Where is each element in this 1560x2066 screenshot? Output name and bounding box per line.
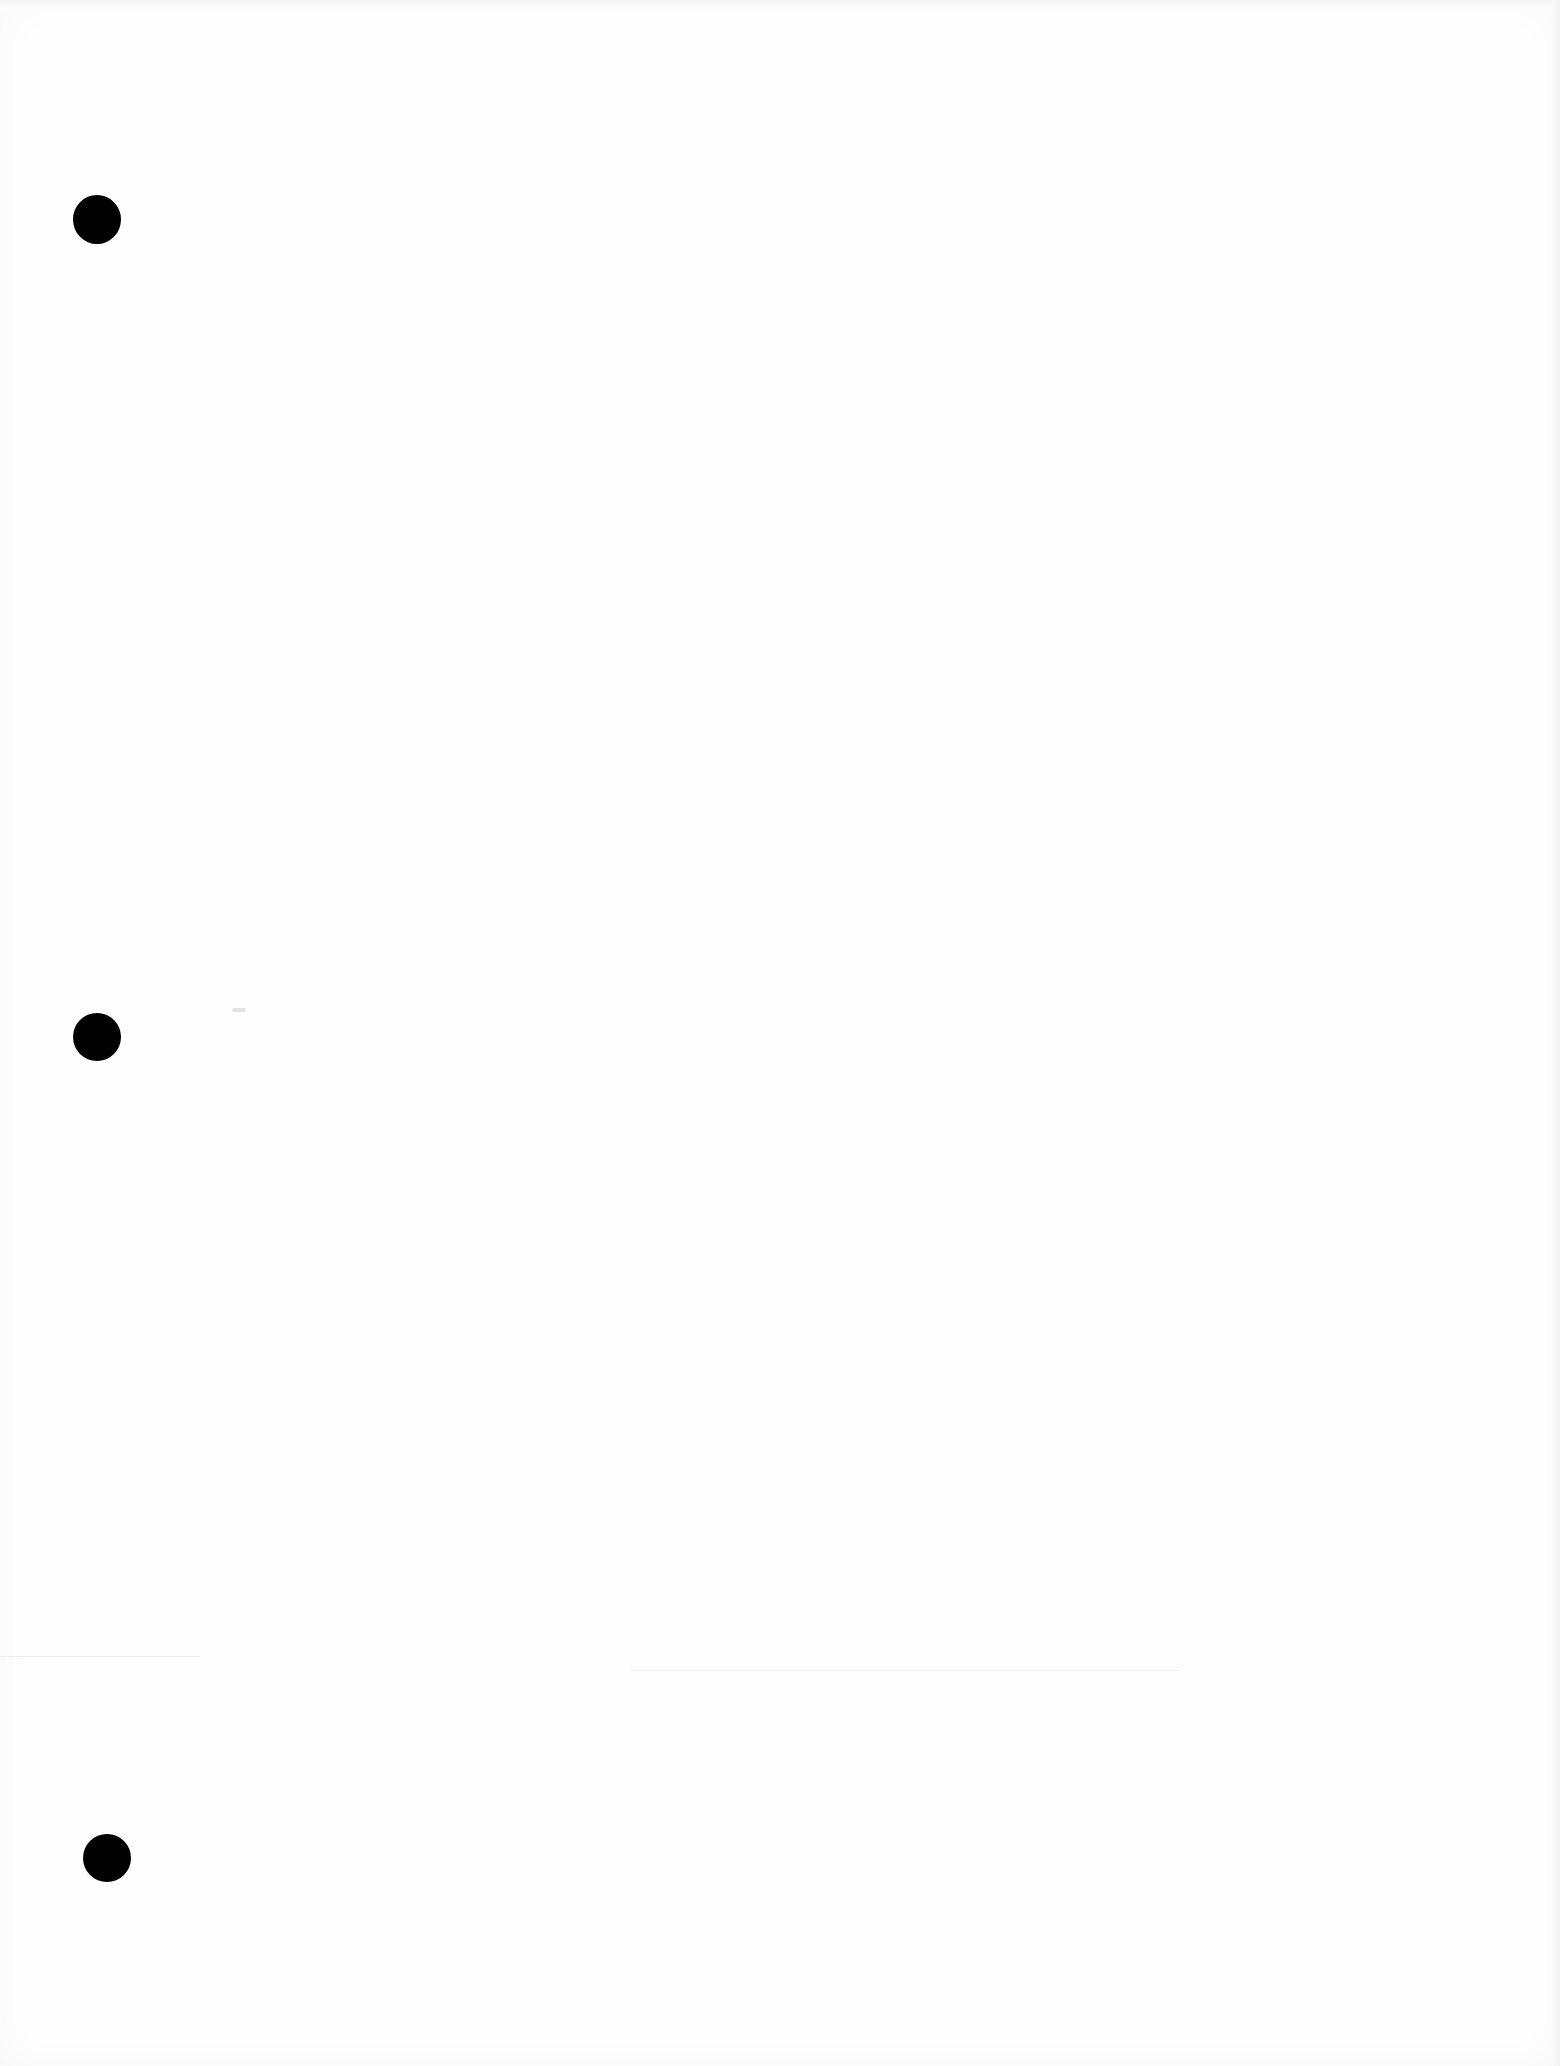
hole-punch-middle bbox=[73, 1013, 121, 1061]
hole-punch-top bbox=[73, 195, 121, 244]
hole-punch-bottom bbox=[83, 1834, 131, 1882]
page-top-edge bbox=[0, 0, 1560, 10]
scan-speck bbox=[232, 1008, 246, 1012]
scan-artifact-line bbox=[0, 1656, 200, 1657]
scan-artifact-line bbox=[630, 1670, 1180, 1671]
blank-page bbox=[0, 0, 1560, 2066]
page-right-edge bbox=[1552, 0, 1560, 2066]
